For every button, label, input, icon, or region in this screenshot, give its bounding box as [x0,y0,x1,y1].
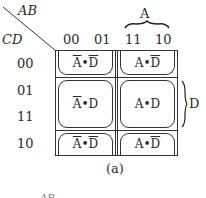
row-header: 00 [17,57,34,70]
term-abar-d: A•D [58,97,113,111]
row-header: 11 [17,110,34,123]
col-header: 01 [94,33,111,46]
figure-caption: (a) [106,162,124,175]
col-header: 10 [155,33,172,46]
term-a-dbar: A•D [120,56,175,70]
row-header: 01 [17,84,34,97]
col-var-label: AB [18,4,37,17]
row-header: 10 [17,137,34,150]
term-abar-dbar: A•D [58,137,113,151]
row-var-label: CD [2,33,22,46]
term-a-dbar: A•D [120,137,175,151]
term-abar-dbar: A•D [58,56,113,70]
col-divider [115,50,118,156]
col-header: 11 [125,33,142,46]
term-a-d: A•D [120,97,175,111]
row-group-label: D [189,97,199,110]
next-figure-fragment: AB [40,193,55,198]
brace-icon [180,80,188,128]
col-group-label: A [140,7,149,20]
brace-icon [124,20,170,30]
col-header: 00 [63,33,80,46]
